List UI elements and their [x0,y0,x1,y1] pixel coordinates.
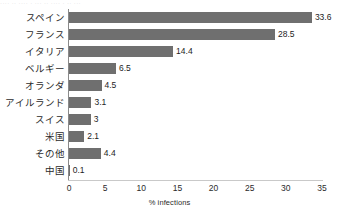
x-tick-6: 30 [281,183,290,193]
x-tick-4: 20 [209,183,218,193]
bar-1 [69,29,275,40]
category-label-text: フランス [25,26,65,43]
bar-row: スイス3 [0,111,339,128]
bar-8 [69,148,101,159]
bar-value-label-9: 0.1 [73,162,85,179]
bar-row: イタリア14.4 [0,43,339,60]
bar-value-label-5: 3.1 [94,94,106,111]
x-tick-1: 5 [103,183,108,193]
bar-value-label-4: 4.5 [105,77,117,94]
bar-row: スペイン33.6 [0,9,339,26]
bar-value-label-3: 6.5 [119,60,131,77]
category-label-text: 中国 [45,162,65,179]
bar-2 [69,46,173,57]
bar-row: その他4.4 [0,145,339,162]
category-label-text: スペイン [26,9,65,26]
bar-value-label-8: 4.4 [104,145,116,162]
bar-value-label-0: 33.6 [315,9,332,26]
bar-row: アイルランド3.1 [0,94,339,111]
x-axis-line [68,180,323,181]
bar-value-label-7: 2.1 [87,128,99,145]
bar-chart: ···· ·· ···· · ··· ·· ···· · ·· ··· スペイン… [0,0,339,212]
bar-3 [69,63,116,74]
x-tick-3: 15 [173,183,182,193]
bar-row: フランス28.5 [0,26,339,43]
bar-0 [69,12,312,23]
x-tick-7: 35 [317,183,326,193]
category-label-text: イタリア [25,43,65,60]
bar-value-label-2: 14.4 [176,43,193,60]
category-label-text: オランダ [25,77,65,94]
bar-6 [69,114,91,125]
bar-value-label-1: 28.5 [278,26,295,43]
bar-5 [69,97,91,108]
bar-4 [69,80,102,91]
bar-7 [69,131,84,142]
x-axis-label: % infections [0,198,339,207]
bar-row: オランダ4.5 [0,77,339,94]
bar-row: 中国0.1 [0,162,339,179]
category-label-text: その他 [35,145,65,162]
bar-row: ベルギー6.5 [0,60,339,77]
cropped-text-artifact: ···· ·· ···· · ··· ·· ···· · ·· ··· [0,0,339,7]
bar-value-label-6: 3 [94,111,99,128]
x-tick-2: 10 [137,183,146,193]
plot-area: スペイン33.6フランス28.5イタリア14.4ベルギー6.5オランダ4.5アイ… [0,7,339,212]
x-tick-5: 25 [245,183,254,193]
category-label-text: 米国 [45,128,65,145]
bar-row: 米国2.1 [0,128,339,145]
category-label-text: アイルランド [5,94,65,111]
category-label-text: ベルギー [25,60,65,77]
x-tick-0: 0 [67,183,72,193]
category-label-text: スイス [35,111,65,128]
bar-9 [69,165,70,176]
